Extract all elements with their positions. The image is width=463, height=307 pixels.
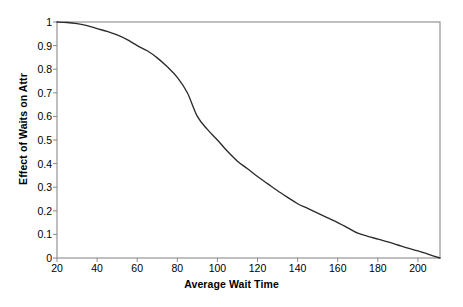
x-tick-label: 140 <box>289 262 307 274</box>
x-axis-title-text: Average Wait Time <box>184 278 279 290</box>
x-axis-title: Average Wait Time <box>0 278 463 290</box>
x-axis-tick-labels: 20406080100120140160180200 <box>0 0 463 307</box>
x-tick-label: 120 <box>249 262 267 274</box>
x-tick-label: 40 <box>91 262 103 274</box>
x-tick-label: 80 <box>171 262 183 274</box>
chart-figure: Effect of Waits on Attr 00.10.20.30.40.5… <box>0 0 463 307</box>
x-tick-label: 20 <box>51 262 63 274</box>
x-tick-label: 60 <box>131 262 143 274</box>
x-tick-label: 180 <box>369 262 387 274</box>
x-tick-label: 200 <box>409 262 427 274</box>
x-tick-label: 100 <box>209 262 227 274</box>
x-tick-label: 160 <box>329 262 347 274</box>
